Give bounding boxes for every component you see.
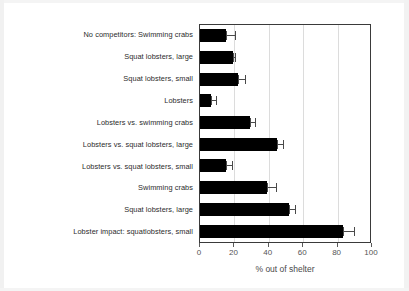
bar	[200, 116, 250, 129]
error-bar-cap-right	[295, 205, 296, 214]
bar-row	[200, 90, 370, 112]
x-tick-20	[233, 243, 234, 247]
error-bar	[238, 75, 247, 84]
chart-figure: No competitors: Swimming crabsSquat lobs…	[0, 0, 409, 291]
bar	[200, 138, 277, 151]
bar	[200, 203, 289, 216]
category-row: Lobsters	[0, 90, 196, 112]
error-bar-cap-left	[343, 227, 344, 236]
category-label: Squat lobsters, large	[124, 206, 196, 213]
category-row: Lobsters vs. swimming crabs	[0, 112, 196, 134]
error-bar-line	[238, 79, 247, 80]
category-label: Lobsters vs. squat lobsters, small	[82, 163, 196, 170]
category-label: No competitors: Swimming crabs	[83, 31, 196, 38]
x-tick-label: 100	[364, 248, 377, 257]
category-label: Lobster impact: squatlobsters, small	[73, 228, 196, 235]
bar	[200, 29, 226, 42]
x-tick-label: 80	[332, 248, 341, 257]
x-tick-label: 0	[197, 248, 201, 257]
x-tick-80	[337, 243, 338, 247]
bar-row	[200, 133, 370, 155]
x-axis-title: % out of shelter	[199, 264, 371, 274]
y-axis-category-labels: No competitors: Swimming crabsSquat lobs…	[0, 24, 196, 243]
error-bar-line	[226, 165, 233, 166]
error-bar-cap-left	[238, 75, 239, 84]
x-tick-100	[371, 243, 372, 247]
error-bar-cap-left	[267, 183, 268, 192]
x-axis-tick-labels: 020406080100	[199, 248, 371, 260]
error-bar-cap-left	[289, 205, 290, 214]
category-row: Squat lobsters, large	[0, 199, 196, 221]
error-bar-cap-right	[276, 183, 277, 192]
error-bar-line	[211, 100, 217, 101]
x-tick-60	[302, 243, 303, 247]
category-label: Lobsters vs. squat lobsters, large	[83, 141, 196, 148]
error-bar-cap-right	[245, 75, 246, 84]
error-bar-cap-right	[232, 161, 233, 170]
error-bar	[233, 53, 236, 62]
category-row: Lobsters vs. squat lobsters, large	[0, 133, 196, 155]
category-row: Lobster impact: squatlobsters, small	[0, 221, 196, 243]
bar-row	[200, 47, 370, 69]
category-row: No competitors: Swimming crabs	[0, 24, 196, 46]
bar-row	[200, 68, 370, 90]
error-bar-cap-right	[354, 227, 355, 236]
x-tick-label: 60	[298, 248, 307, 257]
category-row: Lobsters vs. squat lobsters, small	[0, 155, 196, 177]
error-bar	[226, 161, 233, 170]
category-label: Swimming crabs	[138, 184, 196, 191]
bar	[200, 181, 267, 194]
error-bar-cap-right	[216, 96, 217, 105]
plot-area	[199, 24, 371, 243]
category-label: Lobsters vs. swimming crabs	[97, 119, 196, 126]
error-bar-cap-left	[226, 31, 227, 40]
error-bar	[343, 227, 355, 236]
error-bar-cap-left	[211, 96, 212, 105]
error-bar-cap-right	[283, 140, 284, 149]
error-bar-cap-left	[250, 118, 251, 127]
error-bar-line	[233, 57, 236, 58]
x-tick-40	[268, 243, 269, 247]
bar-row	[200, 155, 370, 177]
error-bar-cap-left	[277, 140, 278, 149]
bar	[200, 51, 233, 64]
error-bar	[211, 96, 217, 105]
category-label: Squat lobsters, small	[123, 75, 196, 82]
error-bar-line	[250, 122, 256, 123]
error-bar-line	[226, 35, 236, 36]
bar	[200, 73, 238, 86]
error-bar-line	[289, 209, 296, 210]
x-tick-label: 40	[263, 248, 272, 257]
bar-row	[200, 199, 370, 221]
category-row: Squat lobsters, small	[0, 68, 196, 90]
error-bar-cap-right	[255, 118, 256, 127]
bar-row	[200, 177, 370, 199]
error-bar	[267, 183, 277, 192]
error-bar-cap-right	[235, 31, 236, 40]
bar-row	[200, 220, 370, 242]
x-tick-label: 20	[229, 248, 238, 257]
error-bar-cap-left	[233, 53, 234, 62]
bar-row	[200, 112, 370, 134]
error-bar-cap-right	[235, 53, 236, 62]
bar	[200, 159, 226, 172]
category-row: Swimming crabs	[0, 177, 196, 199]
x-tick-0	[199, 243, 200, 247]
bar-rows	[200, 25, 370, 242]
bar-row	[200, 25, 370, 47]
error-bar	[226, 31, 236, 40]
page-edge-top	[0, 0, 409, 3]
error-bar-line	[277, 144, 284, 145]
error-bar-line	[343, 231, 355, 232]
error-bar-cap-left	[226, 161, 227, 170]
page-edge-right	[404, 0, 409, 291]
category-label: Lobsters	[164, 97, 196, 104]
error-bar	[250, 118, 256, 127]
error-bar	[277, 140, 284, 149]
error-bar	[289, 205, 296, 214]
error-bar-line	[267, 187, 277, 188]
x-axis-ticks	[199, 243, 371, 247]
bar	[200, 225, 343, 238]
bar	[200, 94, 211, 107]
category-label: Squat lobsters, large	[124, 53, 196, 60]
